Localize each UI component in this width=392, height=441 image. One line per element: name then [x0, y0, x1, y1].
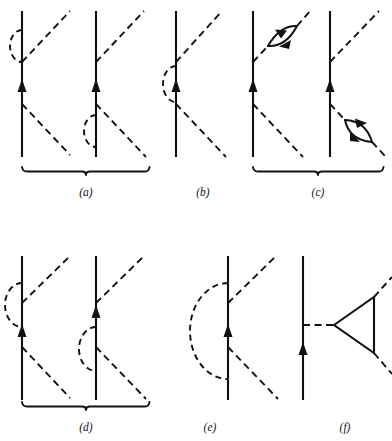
panel-label-e: (e): [204, 421, 217, 434]
bubble-arrow-icon-upper: [355, 119, 367, 129]
vertex-triangle: [334, 297, 374, 353]
interaction-line-upper: [96, 256, 144, 303]
panel-label-f: (f): [340, 421, 351, 434]
up-arrow-icon: [92, 305, 101, 318]
panel-label-d: (d): [79, 421, 93, 434]
interaction-line-lower: [253, 104, 303, 157]
interaction-line-lower: [22, 104, 70, 155]
self-energy-arc: [163, 66, 176, 102]
panel-label-a: (a): [79, 186, 93, 199]
panel-label-c: (c): [312, 186, 325, 199]
panel-e-graph-1: [190, 256, 278, 400]
up-arrow-icon: [299, 342, 308, 355]
panel-label-b: (b): [196, 186, 210, 199]
interaction-line-upper-right: [374, 277, 392, 297]
bubble-arrow-icon-lower: [350, 132, 360, 142]
self-energy-arc: [5, 283, 22, 327]
interaction-line-upper: [330, 11, 379, 62]
interaction-line-lower: [22, 347, 70, 398]
diagram-canvas: (a) (b): [0, 0, 392, 441]
panel-c-graph-1: [249, 11, 311, 157]
interaction-line-lower: [96, 104, 146, 157]
self-energy-arc: [10, 30, 22, 62]
panel-d-graph-1: [5, 256, 70, 400]
self-energy-arc: [190, 283, 228, 379]
interaction-line-upper-inner: [253, 46, 268, 62]
up-arrow-icon: [224, 324, 233, 337]
up-arrow-icon: [172, 79, 181, 92]
panel-b-graph-1: [163, 11, 226, 157]
up-arrow-icon: [249, 79, 258, 92]
feynman-diagram-figure: (a) (b): [0, 0, 392, 441]
interaction-line-lower-outer: [372, 142, 386, 157]
interaction-line-lower: [96, 347, 146, 399]
brace-path: [253, 167, 384, 175]
brace-d: [22, 402, 150, 410]
up-arrow-icon: [326, 79, 335, 92]
up-arrow-icon: [18, 324, 27, 337]
interaction-line-upper: [228, 256, 276, 303]
self-energy-arc: [84, 115, 96, 147]
interaction-line-upper: [22, 11, 70, 62]
interaction-line-lower: [228, 347, 278, 399]
interaction-line-upper: [176, 11, 222, 62]
interaction-line-lower-right: [374, 353, 392, 374]
panel-a-graph-1: [10, 11, 70, 157]
self-energy-arc: [79, 327, 96, 371]
interaction-line-upper: [96, 11, 144, 62]
brace-path: [22, 402, 150, 410]
panel-d-graph-2: [79, 256, 146, 400]
panel-a-graph-2: [84, 11, 146, 157]
brace-a: [22, 167, 150, 175]
brace-path: [22, 167, 150, 175]
panel-c-graph-2: [326, 11, 387, 157]
interaction-line-upper: [22, 256, 70, 303]
brace-c: [253, 167, 384, 175]
interaction-line-lower: [176, 104, 226, 157]
panel-f-graph-1: [299, 256, 392, 400]
up-arrow-icon: [92, 79, 101, 92]
interaction-line-lower-inner: [330, 104, 345, 120]
interaction-line-upper-outer: [297, 11, 310, 26]
up-arrow-icon: [18, 79, 27, 92]
